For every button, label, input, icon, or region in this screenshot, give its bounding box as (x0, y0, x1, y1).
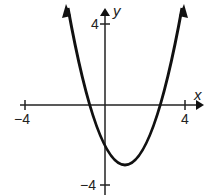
x-tick-label-4: 4 (181, 111, 189, 127)
y-tick-label-neg4: −4 (80, 177, 96, 193)
parabola-graph: −4 4 x 4 −4 y (0, 0, 215, 195)
x-axis-label: x (193, 86, 202, 103)
y-axis-label: y (112, 2, 122, 19)
x-tick-label-neg4: −4 (14, 111, 30, 127)
parabola-curve (68, 8, 182, 165)
y-tick-label-4: 4 (91, 16, 99, 32)
